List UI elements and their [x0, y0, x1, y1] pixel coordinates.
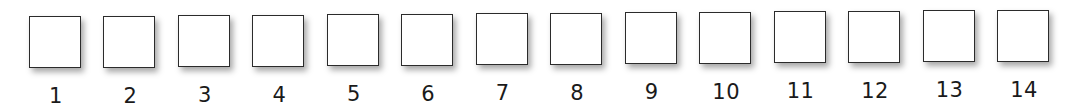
box-number-label: 5 [327, 82, 381, 106]
box-number-label: 6 [401, 82, 455, 106]
box-slot: 12 [848, 11, 904, 107]
box-slot: 14 [997, 10, 1053, 106]
box-slot: 8 [550, 13, 606, 109]
box-slot: 9 [625, 12, 681, 108]
answer-box[interactable] [774, 11, 826, 63]
box-number-label: 1 [29, 84, 83, 108]
box-slot: 11 [774, 11, 830, 107]
answer-box[interactable] [178, 15, 230, 67]
box-number-label: 13 [923, 78, 977, 102]
box-number-label: 9 [625, 80, 679, 104]
box-slot: 6 [401, 14, 457, 110]
box-slot: 4 [252, 15, 308, 111]
box-slot: 2 [103, 16, 159, 111]
box-number-label: 8 [550, 81, 604, 105]
box-slot: 3 [178, 15, 234, 111]
answer-box[interactable] [923, 10, 975, 62]
box-number-label: 12 [848, 79, 902, 103]
box-slot: 5 [327, 14, 383, 110]
box-number-label: 7 [476, 81, 530, 105]
answer-box[interactable] [476, 13, 528, 65]
answer-box[interactable] [997, 10, 1049, 62]
answer-box[interactable] [29, 16, 81, 68]
answer-box[interactable] [625, 12, 677, 64]
box-number-label: 3 [178, 83, 232, 107]
answer-box[interactable] [327, 14, 379, 66]
box-number-label: 10 [699, 80, 753, 104]
answer-box[interactable] [401, 14, 453, 66]
box-slot: 10 [699, 12, 755, 108]
box-number-label: 14 [997, 78, 1051, 102]
answer-box[interactable] [103, 16, 155, 68]
answer-box[interactable] [848, 11, 900, 63]
box-number-label: 11 [774, 79, 828, 103]
answer-box[interactable] [550, 13, 602, 65]
answer-box[interactable] [699, 12, 751, 64]
box-slot: 7 [476, 13, 532, 109]
box-slot: 13 [923, 10, 979, 106]
box-number-label: 4 [252, 83, 306, 107]
box-number-label: 2 [103, 84, 157, 108]
box-slot: 1 [29, 16, 85, 111]
answer-box[interactable] [252, 15, 304, 67]
